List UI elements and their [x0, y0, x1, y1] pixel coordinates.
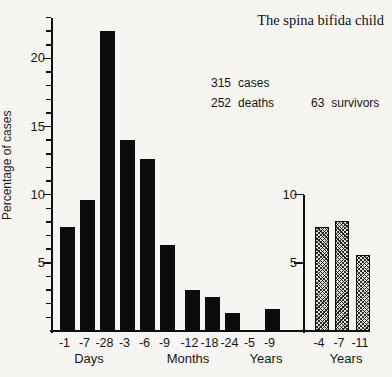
bar-deaths--7-1 — [80, 200, 95, 331]
x-tick-label: -9 — [254, 337, 286, 351]
bar-deaths--28-2 — [100, 31, 115, 331]
group-label-days: Days — [59, 352, 119, 366]
y-axis-tick — [46, 235, 52, 237]
y-axis-tick — [46, 289, 52, 291]
y-tick-label: 15 — [11, 120, 45, 134]
y-axis-tick — [46, 99, 52, 101]
group-label-inset-years: Years — [316, 352, 376, 366]
bar-deaths--9-5 — [160, 245, 175, 331]
y-axis-tick — [46, 167, 52, 169]
bar-deaths--18-7 — [205, 297, 220, 331]
bar-survivors--7 — [335, 221, 349, 331]
y-axis-line — [51, 18, 53, 333]
group-label-months: Months — [158, 352, 218, 366]
bar-survivors--11 — [356, 255, 370, 331]
y-axis-tick — [46, 30, 52, 32]
y-axis-tick — [46, 112, 52, 114]
y-axis-tick — [46, 71, 52, 73]
inset-y-tick-label: 5 — [265, 256, 297, 270]
y-axis-tick — [46, 303, 52, 305]
bar-deaths--24-8 — [225, 313, 240, 331]
bar-deaths--9-10 — [265, 309, 280, 331]
y-axis-tick — [46, 85, 52, 87]
y-tick-label: 10 — [11, 188, 45, 202]
bar-deaths--3-3 — [120, 140, 135, 331]
y-axis-tick — [46, 139, 52, 141]
y-axis-tick — [46, 248, 52, 250]
y-axis-tick — [46, 208, 52, 210]
y-axis-tick — [46, 317, 52, 319]
y-tick-label: 20 — [11, 51, 45, 65]
group-label-years: Years — [236, 352, 296, 366]
y-axis-tick — [46, 17, 52, 19]
x-tick-label: -11 — [344, 337, 376, 351]
y-axis-tick — [46, 180, 52, 182]
bar-chart-plot-area: 5101520-1-7-28-3-6-9-12-18-24-5-9DaysMon… — [0, 0, 392, 377]
bar-deaths--6-4 — [140, 159, 155, 331]
inset-y-tick-label: 10 — [265, 188, 297, 202]
y-axis-tick — [46, 153, 52, 155]
bar-deaths--12-6 — [185, 290, 200, 331]
y-axis-tick — [46, 44, 52, 46]
y-axis-tick — [46, 221, 52, 223]
bar-survivors--4 — [315, 227, 329, 331]
y-axis-tick — [46, 276, 52, 278]
inset-y-axis-line — [303, 195, 305, 333]
bar-deaths--1-0 — [60, 227, 75, 331]
y-tick-label: 5 — [11, 256, 45, 270]
spina-bifida-figure: The spina bifida child 315cases 252death… — [0, 0, 392, 377]
